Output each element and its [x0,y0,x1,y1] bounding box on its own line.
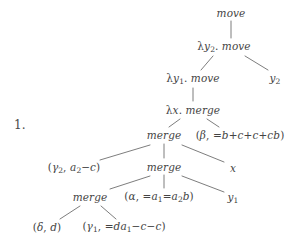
tree-node-operation: λy2. move [197,41,250,54]
tree-node-operation: λy1. move [166,73,219,86]
tree-node-lexical: (γ1, =da1−c−c) [82,221,165,234]
tree-edge [60,206,80,219]
tree-node-lexical: (β, =b+c+c+cb) [196,130,285,141]
tree-edge [110,176,150,189]
derivation-tree-figure: 1. moveλy2. movey2λy1. moveλx. mergemerg… [0,0,302,251]
tree-edge [245,56,268,70]
tree-node-operation: move [217,8,246,19]
tree-edge [182,145,224,162]
tree-edges [0,0,302,251]
tree-node-leaf: y2 [270,73,281,86]
tree-node-operation: merge [147,130,182,141]
tree-edge [201,56,213,70]
tree-node-operation: merge [147,162,182,173]
tree-node-lexical: (γ2, a2−c) [48,162,101,175]
tree-node-lexical: (α, =a1=a2b) [124,191,194,204]
tree-edge [169,119,180,127]
tree-edge [207,119,219,127]
tree-node-lexical: (δ, d) [33,222,62,233]
tree-edge [101,206,116,219]
tree-edge [100,145,150,160]
tree-node-operation: merge [73,192,108,203]
tree-node-operation: λx. merge [166,105,220,116]
tree-node-leaf: y1 [228,192,239,205]
tree-node-leaf: x [230,163,236,174]
